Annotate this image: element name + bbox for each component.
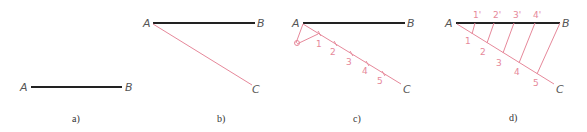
projected-label-1: 1' bbox=[473, 10, 481, 20]
auxiliary-line-ac bbox=[153, 24, 252, 85]
point-a-label: A bbox=[142, 17, 151, 30]
point-b-label: B bbox=[257, 17, 265, 30]
projected-label-3: 3' bbox=[513, 10, 521, 20]
auxiliary-line-ac bbox=[457, 24, 554, 84]
point-b-label: B bbox=[407, 17, 415, 30]
point-a-label: A bbox=[19, 81, 28, 94]
division-label-5: 5 bbox=[377, 76, 383, 86]
projected-label-4: 4' bbox=[533, 10, 541, 20]
point-b-label: B bbox=[562, 17, 570, 30]
projected-label-2: 2' bbox=[493, 10, 501, 20]
caption-a: a) bbox=[72, 113, 80, 125]
division-label-3: 3 bbox=[346, 57, 352, 67]
division-label-3: 3 bbox=[496, 58, 502, 68]
division-label-4: 4 bbox=[362, 66, 368, 76]
division-ticks bbox=[318, 31, 385, 76]
panel-d: 1' 2' 3' 4' 1 2 3 4 5 A B C d) bbox=[444, 10, 570, 124]
panel-a: A B a) bbox=[19, 81, 133, 125]
caption-d: d) bbox=[509, 112, 517, 124]
division-label-2: 2 bbox=[330, 47, 336, 57]
point-c-label: C bbox=[252, 83, 260, 96]
division-label-5: 5 bbox=[533, 78, 539, 88]
division-label-1: 1 bbox=[316, 39, 322, 49]
division-label-4: 4 bbox=[514, 67, 520, 77]
point-c-label: C bbox=[403, 83, 411, 96]
diagram-canvas: A B a) A B C b) 1 2 3 4 5 bbox=[0, 0, 587, 132]
division-label-1: 1 bbox=[465, 36, 471, 46]
point-c-label: C bbox=[556, 83, 564, 96]
panel-c: 1 2 3 4 5 A B C c) bbox=[291, 17, 415, 125]
caption-c: c) bbox=[353, 113, 361, 125]
point-a-label: A bbox=[291, 17, 300, 30]
division-label-2: 2 bbox=[480, 47, 486, 57]
caption-b: b) bbox=[217, 113, 225, 125]
point-b-label: B bbox=[125, 81, 133, 94]
panel-b: A B C b) bbox=[142, 17, 265, 125]
point-a-label: A bbox=[444, 17, 453, 30]
